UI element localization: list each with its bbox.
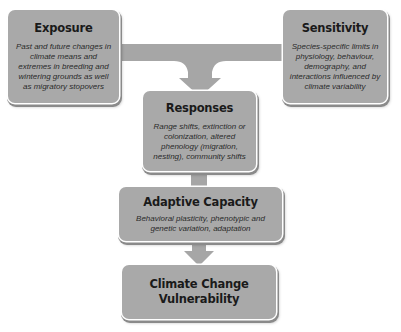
vulnerability-title: Climate Change Vulnerability [122, 277, 276, 307]
exposure-description: Past and future changes in climate means… [8, 42, 119, 92]
adaptive-capacity-description: Behavioral plasticity, phenotypic and ge… [119, 214, 282, 234]
adaptive-capacity-title: Adaptive Capacity [143, 195, 257, 209]
merge-arrow [118, 44, 284, 97]
exposure-title: Exposure [34, 21, 92, 35]
down-arrow [184, 241, 214, 266]
sensitivity-box: Sensitivity Species-specific limits in p… [283, 10, 387, 103]
adaptive-capacity-box: Adaptive Capacity Behavioral plasticity,… [119, 187, 282, 241]
responses-box: Responses Range shifts, extinction or co… [143, 91, 256, 171]
vulnerability-box: Climate Change Vulnerability [122, 265, 276, 319]
exposure-box: Exposure Past and future changes in clim… [8, 10, 119, 103]
responses-description: Range shifts, extinction or colonization… [143, 122, 256, 162]
sensitivity-description: Species-specific limits in physiology, b… [283, 42, 387, 92]
short-connector-bar [191, 171, 207, 187]
climate-vulnerability-diagram: Exposure Past and future changes in clim… [0, 0, 401, 332]
sensitivity-title: Sensitivity [302, 21, 369, 35]
responses-title: Responses [166, 101, 234, 115]
